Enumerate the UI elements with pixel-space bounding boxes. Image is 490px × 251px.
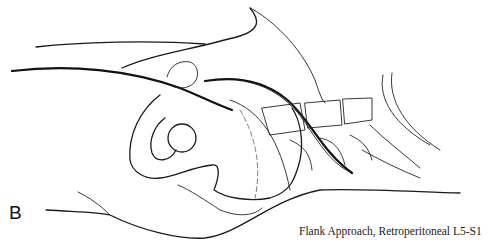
acetabulum-outer xyxy=(151,118,176,160)
figure-caption: Flank Approach, Retroperitoneal L5-S1 xyxy=(299,225,482,237)
incision-line xyxy=(12,68,232,110)
vertebra-l5 xyxy=(262,103,305,135)
abdominal-outline xyxy=(250,8,325,103)
anatomical-illustration xyxy=(0,0,490,251)
rib-2 xyxy=(391,73,440,150)
rib-1 xyxy=(382,75,430,145)
line-drawing xyxy=(0,0,490,251)
rib-3 xyxy=(370,125,420,168)
acetabulum-ring xyxy=(168,124,196,152)
flank-contour xyxy=(122,8,257,68)
rib-4 xyxy=(362,150,420,178)
vertebra-l3 xyxy=(343,98,372,124)
sacrum xyxy=(230,100,290,190)
upper-body-outline xyxy=(36,42,205,47)
panel-label: B xyxy=(9,202,22,224)
pelvis-hidden-line xyxy=(240,110,258,198)
pelvis-outline xyxy=(130,95,302,200)
vertebra-l4 xyxy=(305,100,342,128)
